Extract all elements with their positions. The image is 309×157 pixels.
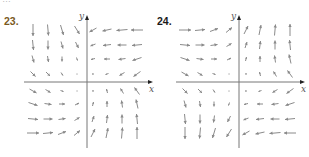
y-axis-arrowhead-icon (237, 15, 241, 20)
arrowhead-icon (270, 132, 273, 135)
arrowhead-icon (131, 28, 134, 31)
arrowhead-icon (285, 118, 288, 121)
arrowhead-icon (184, 121, 187, 124)
arrowhead-icon (274, 25, 277, 28)
arrowhead-icon (259, 56, 262, 59)
arrowhead-icon (256, 132, 259, 135)
arrowhead-icon (288, 24, 291, 27)
arrowhead-icon (214, 58, 217, 61)
vector-field-canvas: xyxy (0, 0, 309, 157)
arrowhead-icon (50, 117, 53, 120)
arrowhead-icon (213, 104, 215, 106)
arrowhead-icon (106, 101, 109, 104)
arrowhead-icon (198, 121, 201, 124)
y-axis-arrowhead-icon (85, 15, 89, 20)
arrowhead-icon (288, 40, 291, 43)
y-axis-label: y (78, 11, 85, 21)
arrowhead-icon (135, 100, 138, 103)
arrowhead-icon (135, 114, 138, 117)
arrowhead-icon (120, 115, 123, 118)
arrowhead-icon (121, 128, 124, 131)
arrowhead-icon (273, 41, 276, 44)
arrowhead-icon (47, 32, 50, 35)
arrowhead-icon (135, 127, 138, 130)
arrowhead-icon (118, 43, 121, 46)
arrowhead-icon (32, 47, 35, 50)
x-axis-label: x (149, 84, 154, 94)
arrowhead-icon (288, 55, 291, 58)
arrowhead-icon (187, 44, 190, 47)
arrowhead-icon (183, 136, 186, 139)
arrowhead-icon (50, 131, 53, 134)
arrowhead-icon (198, 135, 201, 138)
arrowhead-icon (132, 44, 135, 47)
arrowhead-icon (257, 103, 260, 106)
arrowhead-icon (202, 28, 205, 31)
y-axis-label: y (230, 11, 237, 21)
arrowhead-icon (103, 29, 106, 32)
arrowhead-icon (202, 43, 205, 46)
arrowhead-icon (61, 59, 63, 61)
arrowhead-icon (31, 33, 34, 36)
arrowhead-icon (46, 47, 49, 50)
arrowhead-icon (284, 131, 287, 134)
arrowhead-icon (36, 131, 39, 134)
arrowhead-icon (104, 58, 107, 61)
arrowhead-icon (117, 29, 120, 32)
arrowhead-icon (35, 118, 38, 121)
arrowhead-icon (62, 103, 65, 106)
x-axis-label: x (301, 84, 306, 94)
arrowhead-icon (271, 117, 274, 120)
arrowhead-icon (188, 28, 191, 31)
